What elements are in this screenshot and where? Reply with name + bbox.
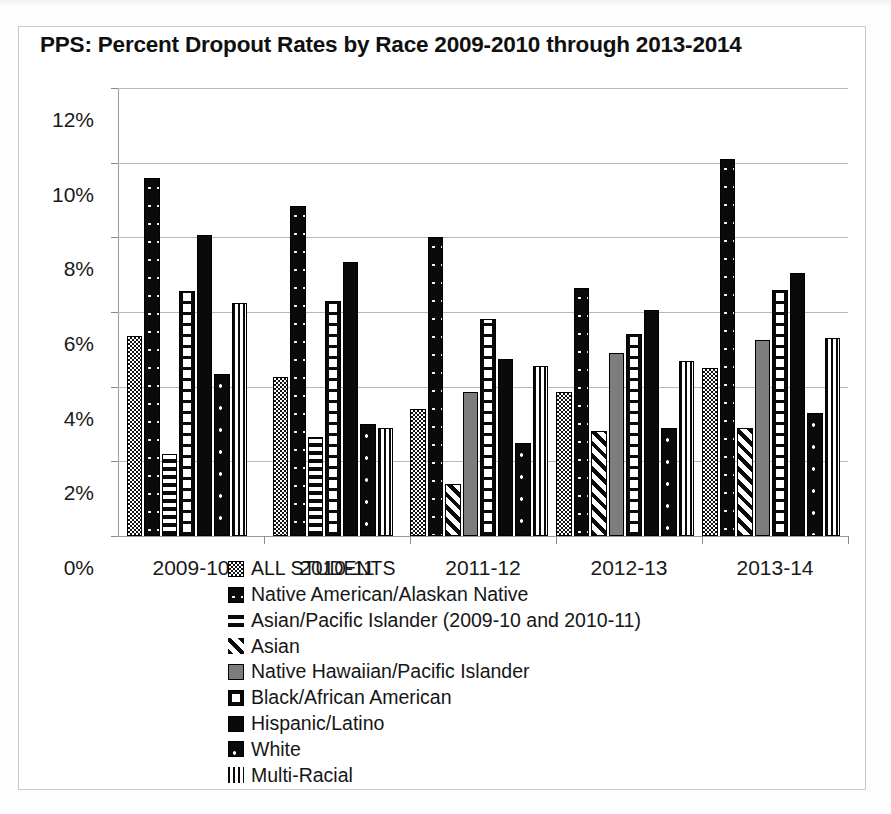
bar <box>480 319 496 536</box>
y-axis-tick-label: 8% <box>64 257 94 281</box>
y-axis-tick-label: 2% <box>64 481 94 505</box>
bar <box>144 178 160 536</box>
legend-item-label: Asian <box>251 637 300 657</box>
legend-swatch-icon <box>228 561 244 577</box>
y-axis-tick-label: 6% <box>64 332 94 356</box>
bar <box>515 443 531 536</box>
legend-item-label: Native Hawaiian/Pacific Islander <box>251 662 530 682</box>
legend-item-label: White <box>251 740 301 760</box>
bar <box>463 392 479 536</box>
bar <box>790 273 806 536</box>
y-axis-tick <box>111 88 118 89</box>
y-axis-tick <box>111 461 118 462</box>
y-axis-tick-label: 0% <box>64 556 94 580</box>
x-axis-category-label: 2013-14 <box>736 556 813 580</box>
legend-item[interactable]: White <box>228 737 748 763</box>
bar-group <box>410 88 556 536</box>
legend-swatch-icon <box>228 614 244 627</box>
y-axis-tick-labels: 0%2%4%6%8%10%12% <box>32 104 98 536</box>
bar <box>498 359 514 536</box>
legend-item-label: Multi-Racial <box>251 766 353 786</box>
legend-swatch-icon <box>228 767 244 783</box>
bar <box>702 368 718 536</box>
legend-item[interactable]: Asian/Pacific Islander (2009-10 and 2010… <box>228 608 748 634</box>
legend-swatch-icon <box>228 664 244 680</box>
plot-area <box>118 88 848 536</box>
bar <box>214 374 230 536</box>
bar <box>445 484 461 536</box>
bar <box>343 262 359 536</box>
legend-swatch-icon <box>228 638 244 654</box>
y-axis-tick <box>111 536 118 537</box>
y-axis-tick-label: 4% <box>64 407 94 431</box>
bar <box>410 409 426 536</box>
bar <box>232 303 248 536</box>
legend-item[interactable]: Hispanic/Latino <box>228 711 748 737</box>
bar <box>308 437 324 536</box>
bar <box>360 424 376 536</box>
y-axis-tick-label: 10% <box>52 183 94 207</box>
bar <box>609 353 625 536</box>
bar <box>772 290 788 536</box>
bar-group <box>118 88 264 536</box>
gridline <box>118 536 848 537</box>
legend-item-label: Native American/Alaskan Native <box>251 585 528 605</box>
bar <box>626 334 642 536</box>
bar <box>428 237 444 536</box>
bar <box>825 338 841 536</box>
y-axis-tick <box>111 163 118 164</box>
legend-swatch-icon <box>228 741 244 757</box>
legend-swatch-icon <box>228 587 244 603</box>
legend-item[interactable]: Native Hawaiian/Pacific Islander <box>228 659 748 685</box>
bar <box>273 377 289 536</box>
legend-item[interactable]: Multi-Racial <box>228 762 748 788</box>
bar <box>737 428 753 536</box>
legend-item[interactable]: Native American/Alaskan Native <box>228 582 748 608</box>
bar <box>591 431 607 536</box>
bar <box>720 159 736 536</box>
y-axis-tick <box>111 387 118 388</box>
bar <box>679 361 695 536</box>
x-axis-tick <box>556 536 557 544</box>
legend-item[interactable]: Asian <box>228 633 748 659</box>
bar-group <box>702 88 848 536</box>
legend-swatch-icon <box>228 690 244 706</box>
bar <box>290 206 306 536</box>
bar <box>807 413 823 536</box>
legend-item-label: Asian/Pacific Islander (2009-10 and 2010… <box>251 611 641 631</box>
x-axis-category-label: 2009-10 <box>152 556 229 580</box>
bar <box>325 301 341 536</box>
legend-item[interactable]: ALL STUDENTS <box>228 556 748 582</box>
y-axis-tick <box>111 312 118 313</box>
chart-legend: ALL STUDENTSNative American/Alaskan Nati… <box>228 556 748 788</box>
bar <box>378 428 394 536</box>
bar <box>533 366 549 536</box>
x-axis-tick <box>264 536 265 544</box>
legend-swatch-icon <box>228 716 244 732</box>
bar <box>179 291 195 536</box>
bar-group <box>264 88 410 536</box>
bar <box>755 340 771 536</box>
legend-item-label: Black/African American <box>251 688 452 708</box>
bar <box>127 336 143 536</box>
legend-item[interactable]: Black/African American <box>228 685 748 711</box>
bar <box>661 428 677 536</box>
x-axis-tick <box>848 536 849 544</box>
legend-item-label: Hispanic/Latino <box>251 714 384 734</box>
bar <box>644 310 660 536</box>
x-axis-tick <box>410 536 411 544</box>
x-axis-tick <box>702 536 703 544</box>
legend-item-label: ALL STUDENTS <box>251 559 395 579</box>
y-axis-tick-label: 12% <box>52 108 94 132</box>
bar <box>556 392 572 536</box>
bar <box>574 288 590 536</box>
bar-group <box>556 88 702 536</box>
bar <box>197 235 213 536</box>
y-axis-tick <box>111 237 118 238</box>
bar <box>162 454 178 536</box>
